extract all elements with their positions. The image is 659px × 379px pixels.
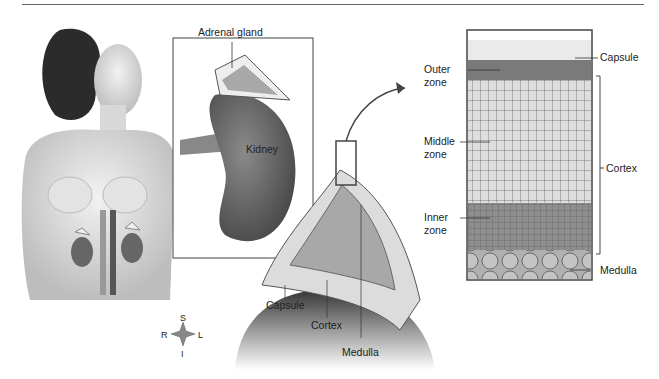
female-figure (22, 29, 175, 300)
compass-right: R (161, 329, 168, 341)
label-outer-zone-2: zone (424, 76, 447, 88)
label-histo-capsule: Capsule (600, 51, 639, 63)
label-section-medulla: Medulla (342, 346, 379, 358)
compass-rose-icon (171, 322, 195, 346)
label-histo-cortex: Cortex (606, 162, 637, 174)
label-section-cortex: Cortex (311, 319, 342, 331)
label-middle-zone-1: Middle (424, 135, 455, 147)
label-inner-zone-1: Inner (424, 211, 448, 223)
kidney-inset (173, 38, 313, 258)
compass-superior: S (180, 312, 186, 324)
label-kidney: Kidney (246, 143, 278, 155)
histology-panel (460, 30, 604, 280)
label-middle-zone-2: zone (424, 148, 447, 160)
label-section-capsule: Capsule (266, 299, 305, 311)
compass-inferior: I (181, 348, 184, 360)
label-outer-zone-1: Outer (424, 63, 450, 75)
compass-left: L (198, 329, 203, 341)
label-adrenal-gland: Adrenal gland (198, 26, 263, 38)
label-histo-medulla: Medulla (600, 264, 637, 276)
label-inner-zone-2: zone (424, 224, 447, 236)
